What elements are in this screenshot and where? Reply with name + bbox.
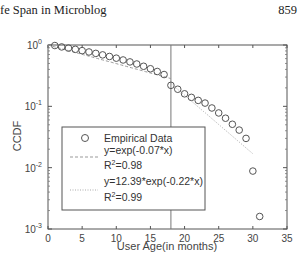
- data-point: [133, 61, 140, 68]
- y-tick-label: 10-3: [25, 222, 42, 235]
- x-tick-label: 0: [45, 233, 51, 244]
- data-point: [229, 121, 236, 128]
- data-point: [202, 100, 209, 107]
- data-point: [243, 135, 250, 142]
- data-point: [215, 110, 222, 117]
- data-point: [195, 97, 202, 104]
- data-point: [52, 42, 59, 49]
- data-point: [222, 115, 229, 122]
- legend-label-fit1: y=exp(-0.07*x): [104, 144, 173, 156]
- data-point: [127, 59, 134, 66]
- legend-label-empirical: Empirical Data: [104, 132, 172, 144]
- data-point: [86, 49, 93, 56]
- data-point: [72, 46, 79, 53]
- data-point: [174, 86, 181, 93]
- data-point: [93, 50, 100, 57]
- data-point: [140, 63, 147, 70]
- data-point: [113, 55, 120, 62]
- data-point: [120, 57, 127, 64]
- x-tick-label: 5: [79, 233, 85, 244]
- data-point: [181, 91, 188, 98]
- data-point: [154, 68, 161, 75]
- y-tick-label: 10-1: [25, 99, 42, 112]
- x-tick-label: 35: [281, 233, 293, 244]
- data-point: [250, 168, 257, 175]
- data-point: [209, 105, 216, 112]
- legend: Empirical Data y=exp(-0.07*x) R2=0.98 y=…: [62, 127, 205, 210]
- data-point: [147, 65, 154, 72]
- y-tick-label: 10-2: [25, 161, 42, 174]
- legend-label-fit2: y=12.39*exp(-0.22*x): [104, 175, 203, 187]
- y-tick-label: 100: [27, 38, 42, 51]
- legend-r2-fit1: R2=0.98: [104, 159, 142, 171]
- data-point: [236, 127, 243, 134]
- data-point: [106, 53, 113, 60]
- data-point: [256, 213, 263, 220]
- ccdf-chart: 0510152025303510-310-210-1100 Empirical …: [0, 0, 303, 265]
- x-axis-label: User Age(in months): [117, 240, 217, 252]
- y-axis-label: CCDF: [11, 120, 23, 151]
- legend-r2-fit2: R2=0.99: [104, 191, 142, 203]
- data-point: [79, 47, 86, 54]
- data-point: [188, 94, 195, 101]
- x-tick-label: 30: [247, 233, 259, 244]
- data-point: [99, 52, 106, 59]
